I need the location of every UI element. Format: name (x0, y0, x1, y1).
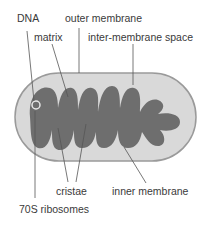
label-70s-ribosomes: 70S ribosomes (19, 203, 89, 215)
label-cristae: cristae (56, 185, 87, 197)
label-matrix: matrix (34, 31, 63, 43)
label-dna: DNA (17, 12, 39, 24)
label-inter-membrane-space: inter-membrane space (88, 31, 193, 43)
label-inner-membrane: inner membrane (112, 185, 188, 197)
ribosome-marker (32, 101, 40, 109)
label-outer-membrane: outer membrane (65, 12, 142, 24)
